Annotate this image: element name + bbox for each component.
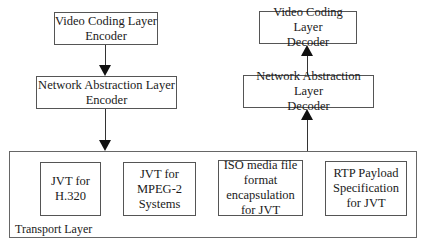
arrow-down-icon — [99, 65, 111, 76]
connector-vcl-nal-encoder — [105, 45, 106, 65]
iso-media-label: ISO media file format encapsulation for … — [224, 158, 298, 218]
connector-nal-encoder-transport — [105, 109, 106, 140]
nal-encoder-box: Network Abstraction Layer Encoder — [36, 76, 177, 109]
rtp-payload-box: RTP Payload Specification for JVT — [325, 161, 407, 216]
vcl-decoder-label: Video Coding Layer Decoder — [260, 5, 356, 50]
jvt-mpeg2-box: JVT for MPEG-2 Systems — [123, 162, 196, 216]
arrow-up-icon — [301, 45, 313, 56]
arrow-down-icon — [99, 140, 111, 151]
rtp-payload-label: RTP Payload Specification for JVT — [333, 166, 399, 211]
nal-decoder-label: Network Abstraction Layer Decoder — [244, 69, 373, 114]
nal-decoder-box: Network Abstraction Layer Decoder — [243, 75, 374, 108]
jvt-h320-box: JVT for H.320 — [40, 162, 101, 216]
jvt-mpeg2-label: JVT for MPEG-2 Systems — [137, 167, 182, 212]
transport-layer-label: Transport Layer — [15, 222, 92, 237]
vcl-encoder-box: Video Coding Layer Encoder — [54, 12, 158, 45]
arrow-up-icon — [301, 109, 313, 120]
vcl-decoder-box: Video Coding Layer Decoder — [259, 11, 357, 44]
connector-transport-nal-decoder — [307, 120, 308, 151]
vcl-encoder-label: Video Coding Layer Encoder — [55, 14, 157, 44]
jvt-h320-label: JVT for H.320 — [51, 174, 90, 204]
nal-encoder-label: Network Abstraction Layer Encoder — [38, 78, 175, 108]
iso-media-box: ISO media file format encapsulation for … — [218, 160, 303, 216]
